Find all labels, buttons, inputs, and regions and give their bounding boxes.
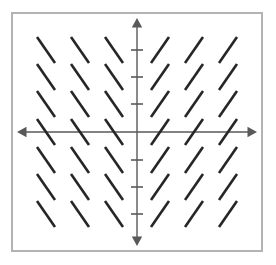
slope-segment <box>185 147 203 173</box>
y-axis-down-arrowhead <box>132 237 142 247</box>
slope-segment <box>219 201 237 227</box>
slope-segment <box>185 91 203 117</box>
slope-segment <box>151 174 169 200</box>
slope-segment <box>185 37 203 63</box>
slope-segment <box>37 64 55 90</box>
slope-segment <box>219 64 237 90</box>
slope-segment <box>71 91 89 117</box>
slope-segment <box>71 37 89 63</box>
slope-segment <box>151 64 169 90</box>
slope-segment <box>105 37 123 63</box>
slope-segment <box>105 64 123 90</box>
slope-segment <box>185 64 203 90</box>
slope-segment <box>105 201 123 227</box>
slope-segment <box>219 174 237 200</box>
slope-segment <box>219 147 237 173</box>
slope-segment <box>151 147 169 173</box>
slope-segment <box>71 147 89 173</box>
axes-layer <box>17 18 257 246</box>
slope-segment <box>219 91 237 117</box>
slope-segment <box>37 147 55 173</box>
slope-segment <box>71 201 89 227</box>
slope-segment <box>37 91 55 117</box>
slope-segment <box>151 91 169 117</box>
slope-segment <box>151 201 169 227</box>
x-axis-right-arrowhead <box>248 127 258 137</box>
y-axis-up-arrowhead <box>132 18 142 28</box>
slope-segment <box>151 37 169 63</box>
slope-segment <box>37 174 55 200</box>
slope-segment <box>71 174 89 200</box>
slope-segment <box>37 37 55 63</box>
slope-field-canvas <box>0 0 276 265</box>
slope-field-figure <box>0 0 276 265</box>
slope-segment <box>185 201 203 227</box>
slope-segment <box>37 201 55 227</box>
slope-segment <box>105 91 123 117</box>
slope-segment <box>219 37 237 63</box>
slope-segment <box>185 174 203 200</box>
x-axis-left-arrowhead <box>17 127 27 137</box>
slope-segment <box>105 174 123 200</box>
slope-segment <box>71 64 89 90</box>
slope-segment <box>105 147 123 173</box>
